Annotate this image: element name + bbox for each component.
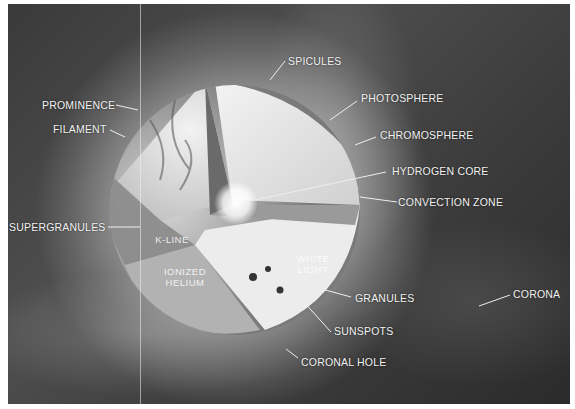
hydrogen-core bbox=[214, 181, 258, 225]
label-granules: GRANULES bbox=[355, 292, 414, 304]
label-white: WHITE bbox=[293, 253, 333, 264]
label-coronal-hole: CORONAL HOLE bbox=[301, 356, 386, 368]
label-ionized: IONIZED bbox=[160, 266, 210, 277]
label-k-line: K-LINE bbox=[152, 234, 192, 245]
label-sunspots: SUNSPOTS bbox=[334, 325, 393, 337]
label-photosphere: PHOTOSPHERE bbox=[361, 92, 444, 104]
label-convection-zone: CONVECTION ZONE bbox=[398, 196, 503, 208]
label-corona: CORONA bbox=[513, 288, 560, 300]
label-hydrogen-core: HYDROGEN CORE bbox=[392, 165, 489, 177]
label-prominence: PROMINENCE bbox=[42, 99, 115, 111]
label-filament: FILAMENT bbox=[53, 123, 107, 135]
label-helium: HELIUM bbox=[160, 277, 210, 288]
label-spicules: SPICULES bbox=[288, 55, 342, 67]
scan-line bbox=[140, 4, 141, 404]
label-light: LIGHT bbox=[293, 264, 333, 275]
label-chromosphere: CHROMOSPHERE bbox=[380, 129, 473, 141]
label-supergranules: SUPERGRANULES bbox=[9, 221, 106, 233]
